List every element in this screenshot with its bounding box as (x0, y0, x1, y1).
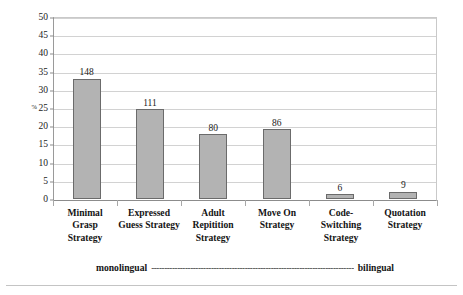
category-label-line: Quotation (374, 207, 436, 219)
category-label-line: Repitition (182, 219, 244, 231)
ytick-mark-20 (50, 127, 54, 128)
bar-code-switching-strategy[interactable]: 6 (326, 194, 354, 199)
ytick-label-10: 10 (39, 159, 49, 169)
bar-series: 148 111 80 86 (55, 19, 435, 199)
bar-value-label-1: 111 (143, 99, 157, 109)
bar-slot-3: 86 (245, 19, 308, 199)
bar-adult-repitition-strategy[interactable]: 80 (199, 134, 227, 199)
ytick-label-50: 50 (39, 13, 49, 23)
bar-value-label-0: 148 (80, 68, 94, 78)
ytick-mark-10 (50, 163, 54, 164)
xtick-2 (181, 200, 182, 206)
category-label-code-switching-strategy: Code- Switching Strategy (309, 207, 373, 244)
ytick-label-45: 45 (39, 31, 49, 41)
category-label-line: Strategy (246, 219, 308, 231)
bar-slot-5: 9 (372, 19, 435, 199)
ytick-label-20: 20 (39, 122, 49, 132)
category-label-line: Strategy (374, 219, 436, 231)
x-axis-category-labels: Minimal Grasp Strategy Expressed Guess S… (53, 207, 437, 244)
category-label-move-on-strategy: Move On Strategy (245, 207, 309, 244)
bar-value-label-2: 80 (209, 124, 219, 134)
category-label-line: Move On (246, 207, 308, 219)
continuum-right-pole: bilingual (358, 262, 394, 273)
ytick-mark-15 (50, 145, 54, 146)
bar-value-label-4: 6 (338, 184, 343, 194)
bar-slot-0: 148 (55, 19, 118, 199)
ytick-mark-30 (50, 90, 54, 91)
category-label-line: Minimal Grasp (54, 207, 116, 232)
bar-value-label-5: 9 (401, 181, 406, 191)
category-label-minimal-grasp-strategy: Minimal Grasp Strategy (53, 207, 117, 244)
category-label-expressed-guess-strategy: Expressed Guess Strategy (117, 207, 181, 244)
ytick-label-40: 40 (39, 50, 49, 60)
xtick-6 (437, 200, 438, 206)
bar-slot-2: 80 (182, 19, 245, 199)
ytick-mark-5 (50, 181, 54, 182)
bar-slot-4: 6 (308, 19, 371, 199)
ytick-label-25: %25 (32, 104, 48, 114)
footer-divider (6, 285, 457, 286)
category-label-line: Strategy (54, 232, 116, 244)
ytick-label-35: 35 (39, 68, 49, 78)
category-label-line: Strategy (310, 232, 372, 244)
bar-quotation-strategy[interactable]: 9 (389, 192, 417, 199)
ytick-label-25-value: 25 (39, 103, 49, 113)
x-axis-ticks (53, 200, 437, 206)
bar-chart-figure: 50 45 40 35 30 %25 20 15 10 (0, 0, 463, 295)
category-label-line: Code- (310, 207, 372, 219)
ytick-mark-40 (50, 54, 54, 55)
bar-expressed-guess-strategy[interactable]: 111 (136, 109, 164, 199)
ytick-mark-25 (50, 109, 54, 110)
ytick-mark-35 (50, 72, 54, 73)
xtick-1 (117, 200, 118, 206)
ytick-label-5: 5 (43, 177, 48, 187)
xtick-3 (245, 200, 246, 206)
xtick-5 (373, 200, 374, 206)
category-label-line: Expressed (118, 207, 180, 219)
continuum-left-pole: monolingual (96, 262, 147, 273)
plot-area: 50 45 40 35 30 %25 20 15 10 (53, 17, 437, 201)
bar-minimal-grasp-strategy[interactable]: 148 (73, 79, 101, 199)
category-label-quotation-strategy: Quotation Strategy (373, 207, 437, 244)
percent-axis-label: % (32, 104, 37, 111)
bar-slot-1: 111 (118, 19, 181, 199)
category-label-line: Guess Strategy (118, 219, 180, 231)
bar-move-on-strategy[interactable]: 86 (263, 129, 291, 199)
ytick-mark-45 (50, 36, 54, 37)
continuum-dashed-line: ----------------------------------------… (151, 263, 354, 273)
bar-value-label-3: 86 (272, 119, 282, 129)
ytick-mark-50 (50, 18, 54, 19)
xtick-4 (309, 200, 310, 206)
ytick-label-15: 15 (39, 141, 49, 151)
category-label-line: Switching (310, 219, 372, 231)
category-label-adult-repitition-strategy: Adult Repitition Strategy (181, 207, 245, 244)
category-label-line: Adult (182, 207, 244, 219)
ytick-label-0: 0 (43, 195, 48, 205)
category-label-line: Strategy (182, 232, 244, 244)
plot-wrapper: 50 45 40 35 30 %25 20 15 10 (0, 0, 463, 212)
xtick-0 (53, 200, 54, 206)
ytick-label-30: 30 (39, 86, 49, 96)
continuum-annotation: monolingual ----------------------------… (53, 262, 437, 273)
